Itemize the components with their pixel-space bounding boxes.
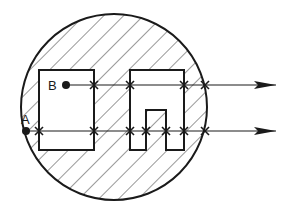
point-a-dot [22,127,30,135]
point-b-label: B [48,78,57,93]
ray-crossing-diagram: BA [0,0,290,215]
point-a-label: A [21,112,30,127]
hatched-circle-region [21,14,207,200]
point-b-dot [62,81,70,89]
